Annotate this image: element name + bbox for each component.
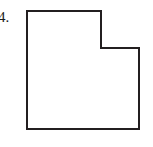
l-shaped-polygon xyxy=(27,11,139,129)
geometric-shape-svg xyxy=(0,0,153,147)
figure-container: 4. xyxy=(0,0,153,147)
